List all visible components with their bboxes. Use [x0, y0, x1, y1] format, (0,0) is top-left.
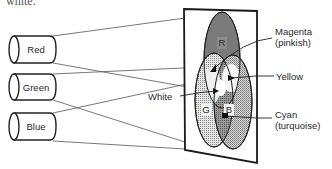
label-cyan: Cyan	[275, 109, 297, 120]
label-white: White	[148, 91, 172, 102]
projector-blue: Blue	[9, 113, 56, 140]
projector-blue-label: Blue	[26, 121, 45, 132]
label-magenta-sub: (pinkish)	[275, 37, 311, 48]
circle-label-g: G	[202, 104, 209, 115]
projector-green: Green	[9, 74, 56, 100]
label-cyan-sub: (turquoise)	[275, 120, 320, 131]
circle-label-r: R	[219, 37, 226, 48]
label-yellow: Yellow	[276, 71, 303, 82]
projector-red: Red	[9, 36, 56, 63]
additive-color-diagram: Red Green Blue R G B	[0, 0, 332, 169]
label-magenta: Magenta	[275, 26, 313, 37]
projector-red-label: Red	[27, 44, 44, 55]
projector-green-label: Green	[23, 82, 49, 93]
white-center	[216, 80, 226, 96]
